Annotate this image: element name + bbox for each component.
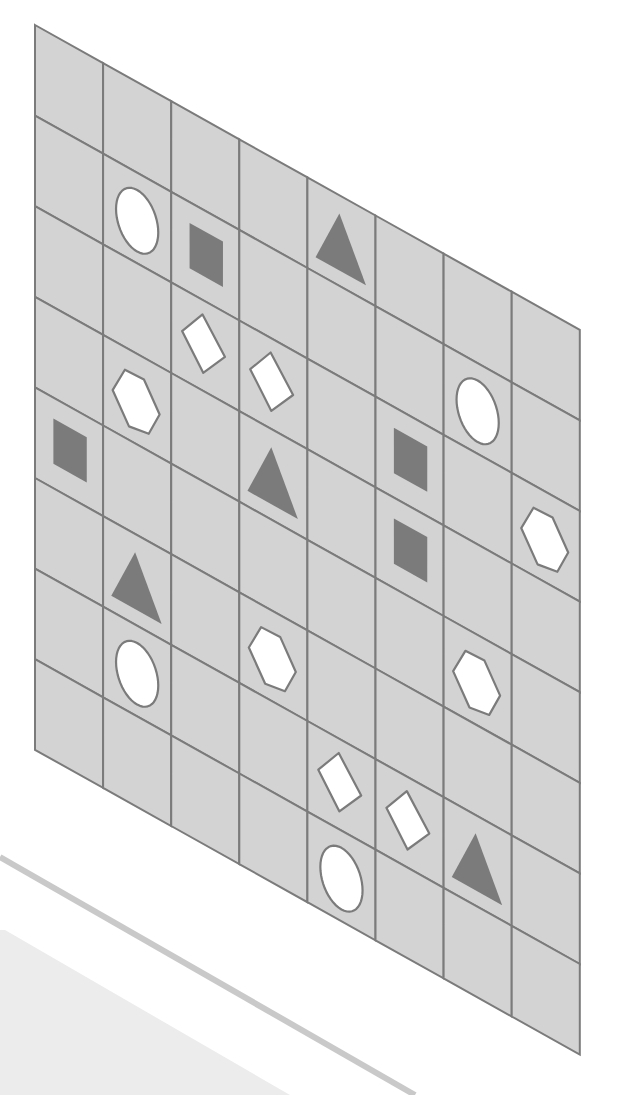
puzzle-figure [0,0,625,1095]
skewed-grid [35,25,580,1055]
lower-left-panel [0,930,290,1095]
cut-off-text-2: l [0,972,8,994]
cut-off-text-1: t [0,928,8,950]
